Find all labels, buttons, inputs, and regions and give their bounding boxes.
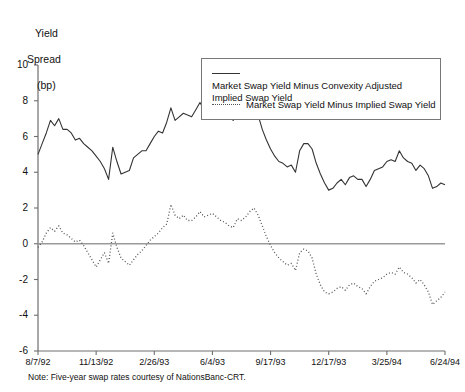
y-axis-tick-label: 4 — [2, 166, 28, 177]
series-line-2 — [38, 204, 445, 304]
y-axis-title-line3: (bp) — [37, 79, 61, 92]
y-axis-title-line2: Spread — [27, 53, 61, 66]
x-axis-tick-label: 6/24/94 — [415, 357, 465, 367]
y-axis-tick-label: 8 — [2, 95, 28, 106]
x-axis-tick-label: 12/17/93 — [299, 357, 359, 367]
x-axis-tick-label: 9/17/93 — [241, 357, 301, 367]
dotted-line-key-icon — [212, 104, 240, 105]
y-axis-tick-label: -6 — [2, 345, 28, 356]
legend-item-dotted: Market Swap Yield Minus Implied Swap Yie… — [212, 99, 436, 111]
y-axis-tick-label: 10 — [2, 59, 28, 70]
x-axis-tick-label: 2/26/93 — [124, 357, 184, 367]
legend: Market Swap Yield Minus Convexity Adjust… — [201, 58, 441, 120]
y-axis-tick-label: 2 — [2, 202, 28, 213]
chart-note: Note: Five-year swap rates courtesy of N… — [28, 372, 246, 382]
legend-label-dotted: Market Swap Yield Minus Implied Swap Yie… — [246, 99, 436, 111]
x-axis-tick-label: 6/4/93 — [182, 357, 242, 367]
y-axis-tick-label: 0 — [2, 238, 28, 249]
x-axis-tick-label: 8/7/92 — [8, 357, 68, 367]
y-axis-tick-label: -2 — [2, 274, 28, 285]
y-axis-title: Yield Spread (bp) — [27, 14, 61, 105]
top-cropped-text — [0, 0, 452, 8]
y-axis-title-line1: Yield — [35, 27, 61, 40]
x-axis-tick-label: 11/13/92 — [66, 357, 126, 367]
solid-line-key-icon — [212, 73, 240, 74]
y-axis-tick-label: -4 — [2, 309, 28, 320]
y-axis-tick-label: 6 — [2, 131, 28, 142]
x-axis-tick-label: 3/25/94 — [357, 357, 417, 367]
